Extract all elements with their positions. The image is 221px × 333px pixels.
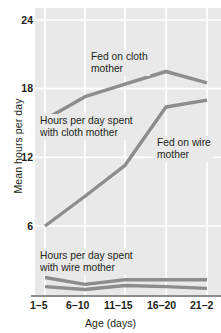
series-line-hours-per-day-spent-with-wire-mother <box>45 278 207 285</box>
x-tick-label-1-5: 1–5 <box>30 300 48 311</box>
annotation-hours-with-cloth-mother: Hours per day spent with cloth mother <box>38 114 135 140</box>
y-tick-label-6: 6 <box>17 221 33 232</box>
y-tick-label-24: 24 <box>17 15 33 26</box>
annotation-fed-on-wire-mother: Fed on wire mother <box>155 136 213 162</box>
x-tick-label-21-25: 21–2 <box>190 300 213 311</box>
series-line-hours-per-day-spent-with-cloth-mother <box>45 72 207 120</box>
x-tick-label-6-10: 6–10 <box>66 300 89 311</box>
x-axis-line <box>31 295 221 297</box>
y-tick-label-12: 12 <box>17 152 33 163</box>
chart-figure: Mean hours per day 24 18 12 6 1–5 6–10 1… <box>0 0 221 333</box>
annotation-fed-on-cloth-mother: Fed on cloth mother <box>89 50 150 76</box>
annotation-hours-with-wire-mother: Hours per day spent with wire mother <box>38 249 135 275</box>
x-tick-label-11-15: 11–15 <box>104 300 133 311</box>
series-line-fed-on-wire-mother <box>45 286 207 290</box>
y-tick-label-18: 18 <box>17 83 33 94</box>
y-axis-title: Mean hours per day <box>12 81 24 211</box>
x-axis-title: Age (days) <box>0 318 221 329</box>
x-tick-label-16-20: 16–20 <box>147 300 176 311</box>
